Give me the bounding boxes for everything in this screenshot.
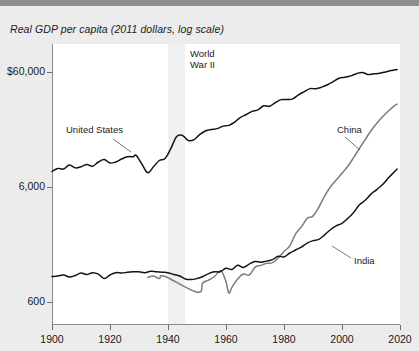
leader-line-united-states (113, 139, 131, 152)
leader-line-india (332, 246, 351, 258)
leader-line-china (345, 137, 360, 150)
annotation-china: China (337, 124, 362, 135)
series-line-india (52, 169, 397, 280)
annotation-united-states: United States (66, 124, 123, 135)
chart-figure: Real GDP per capita (2011 dollars, log s… (0, 6, 419, 351)
annotation-india: India (354, 255, 375, 266)
annotation-world-war-ii: World War II (190, 48, 215, 70)
series-line-united-states (52, 70, 397, 173)
